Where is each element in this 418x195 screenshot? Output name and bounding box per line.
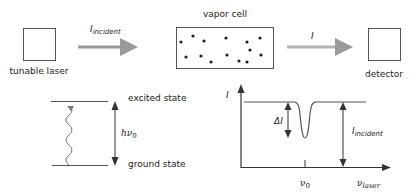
transmitted-beam: I [287, 31, 347, 47]
laser-box [24, 29, 56, 61]
vapor-cell-box [177, 28, 274, 69]
incident-arrow-head-up [340, 102, 347, 110]
excited-state-label: excited state [128, 93, 187, 103]
incident-beam: Iincident [78, 24, 132, 47]
transmission-curve [244, 102, 366, 138]
detector: detector [365, 29, 403, 80]
energy-level-diagram: hν0 excited state ground state [51, 93, 187, 169]
resonance-label: ν0 [300, 178, 310, 190]
vapor-cell: vapor cell [177, 9, 274, 69]
detector-box [369, 29, 401, 61]
incident-arrow-head-down [340, 159, 347, 167]
transition-arrow-head-up [112, 101, 119, 110]
ground-state-label: ground state [128, 159, 186, 169]
dip-arrow-head-up [285, 102, 292, 110]
tunable-laser: tunable laser [9, 29, 68, 77]
y-axis-label: I [226, 90, 229, 100]
transition-energy-label: hν0 [121, 128, 137, 140]
vapor-cell-label: vapor cell [203, 9, 247, 19]
detector-label: detector [365, 69, 403, 79]
y-axis-arrowhead [238, 84, 245, 93]
absorption-spectroscopy-diagram: tunable laser Iincident vapor cell [0, 0, 418, 195]
atoms [179, 34, 262, 63]
transition-arrow-head-down [112, 157, 119, 166]
dip-label: ΔI [273, 116, 283, 126]
dip-arrow-head-down [285, 130, 292, 138]
x-axis-label: νlaser [357, 178, 381, 190]
laser-label: tunable laser [9, 66, 68, 76]
photon-wave [66, 107, 72, 165]
incident-beam-label: Iincident [90, 24, 121, 36]
incident-intensity-label: Iincident [352, 126, 383, 138]
transmitted-beam-label: I [311, 31, 314, 41]
absorption-plot: I ΔI Iincident ν0 νlaser [226, 84, 391, 190]
x-axis-arrowhead [382, 164, 391, 171]
